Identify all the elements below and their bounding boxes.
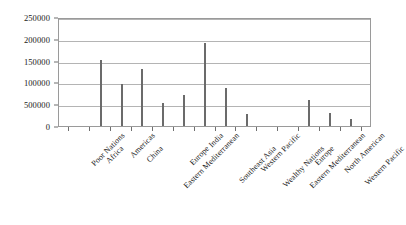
bar [121,84,123,126]
bars-layer [59,19,370,126]
x-axis-label: China [145,144,165,164]
bar [183,95,185,126]
plot-area [58,18,371,127]
y-tick-label: 100000 [24,78,50,88]
bar [350,119,352,126]
bar [162,103,164,126]
bar [308,100,310,126]
y-axis: 2500002000001500001000005000000 [0,0,58,145]
bar [204,43,206,126]
bar [246,114,248,126]
x-axis-labels: Poor NationsAfricaAmericasChinaEastern M… [0,127,377,225]
bar [141,69,143,126]
y-tick-label: 200000 [24,35,50,45]
y-tick-label: 250000 [24,13,50,23]
y-tick-label: 150000 [24,57,50,67]
bar [329,113,331,126]
bar [100,60,102,126]
bar [225,88,227,126]
y-tick-label: 500000 [24,100,50,110]
